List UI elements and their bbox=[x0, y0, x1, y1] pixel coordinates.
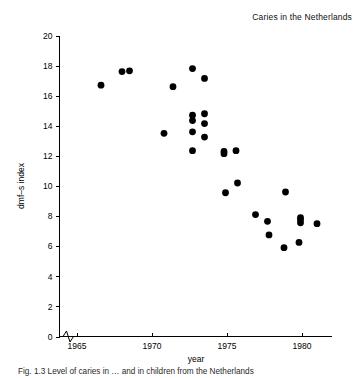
y-tick-label: 16 bbox=[43, 91, 53, 101]
data-point bbox=[282, 189, 289, 196]
y-tick-label: 0 bbox=[48, 332, 53, 342]
data-point bbox=[264, 218, 271, 225]
data-point bbox=[296, 239, 303, 246]
axes-group bbox=[60, 36, 333, 343]
x-tick-label: 1980 bbox=[293, 341, 312, 351]
data-point bbox=[266, 232, 273, 239]
y-tick-label: 14 bbox=[43, 121, 53, 131]
data-point bbox=[189, 147, 196, 154]
y-tick-label: 2 bbox=[48, 302, 53, 312]
data-point bbox=[189, 117, 196, 124]
x-tick-label: 1975 bbox=[218, 341, 237, 351]
data-point bbox=[189, 65, 196, 72]
x-tick-label: 1970 bbox=[143, 341, 162, 351]
data-points-layer bbox=[98, 65, 321, 251]
data-point bbox=[221, 150, 228, 157]
y-tick-label: 8 bbox=[48, 211, 53, 221]
scatter-plot: 02468101214161820 1965197019751980 year … bbox=[0, 0, 360, 378]
y-tick-label: 10 bbox=[43, 181, 53, 191]
figure-container: Caries in the Netherlands 02468101214161… bbox=[0, 0, 360, 378]
data-point bbox=[233, 147, 240, 154]
data-point bbox=[201, 75, 208, 82]
x-tick-group: 1965197019751980 bbox=[68, 333, 312, 351]
data-point bbox=[161, 130, 168, 137]
y-tick-group: 02468101214161820 bbox=[43, 31, 59, 342]
data-point bbox=[98, 82, 105, 89]
data-point bbox=[222, 189, 229, 196]
figure-caption: Fig. 1.3 Level of caries in … and in chi… bbox=[18, 366, 352, 377]
data-point bbox=[314, 220, 321, 227]
y-tick-label: 18 bbox=[43, 61, 53, 71]
data-point bbox=[201, 134, 208, 141]
x-tick-label: 1965 bbox=[68, 341, 87, 351]
data-point bbox=[297, 219, 304, 226]
data-point bbox=[252, 211, 259, 218]
x-axis-title: year bbox=[188, 354, 205, 364]
data-point bbox=[170, 83, 177, 90]
data-point bbox=[201, 120, 208, 127]
y-tick-label: 20 bbox=[43, 31, 53, 41]
y-tick-label: 4 bbox=[48, 272, 53, 282]
data-point bbox=[234, 180, 241, 187]
data-point bbox=[119, 68, 126, 75]
y-axis-title: dmf–s index bbox=[16, 162, 26, 209]
y-tick-label: 6 bbox=[48, 241, 53, 251]
y-tick-label: 12 bbox=[43, 151, 53, 161]
data-point bbox=[126, 67, 133, 74]
data-point bbox=[281, 244, 288, 251]
data-point bbox=[201, 110, 208, 117]
data-point bbox=[189, 128, 196, 135]
